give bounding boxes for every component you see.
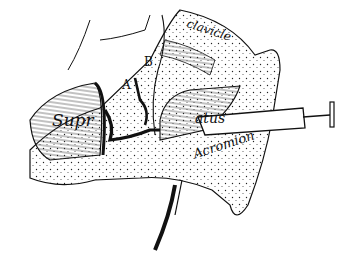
illustration-drawing xyxy=(0,0,352,266)
lower-vessel xyxy=(155,185,175,250)
label-supraspinatus-right: atus xyxy=(195,111,225,125)
label-point-b: B xyxy=(144,56,153,68)
upper-vessels-2 xyxy=(100,15,150,40)
anatomical-illustration: Supr atus clavicle Acromion A B xyxy=(0,0,352,266)
label-point-a: A xyxy=(122,79,131,91)
upper-vessels xyxy=(68,20,90,70)
label-supraspinatus-left: Supr xyxy=(52,112,94,129)
